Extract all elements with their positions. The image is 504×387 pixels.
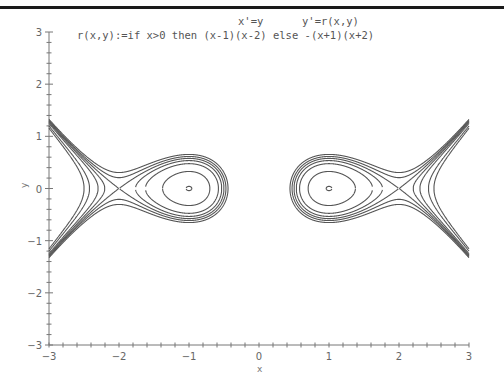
y-tick-label: 2 (36, 79, 42, 90)
trajectory-curve (49, 123, 98, 253)
title-rule: r(x,y):=if x>0 then (x-1)(x-2) else -(x+… (77, 29, 374, 41)
trajectory-curve (146, 164, 219, 214)
x-tick-label: 3 (466, 351, 472, 362)
x-tick-label: 0 (256, 351, 262, 362)
trajectory-curve (49, 120, 226, 256)
x-tick-label: 1 (326, 351, 332, 362)
trajectory-curve (163, 171, 210, 205)
title: x'=y y'=r(x,y) r(x,y):=if x>0 then (x-1)… (77, 15, 374, 41)
trajectory-curve (49, 128, 84, 249)
x-tick-label: 2 (396, 351, 402, 362)
y-tick-label: −3 (27, 340, 42, 351)
x-tick-label: −2 (112, 351, 127, 362)
title-xprime: x'=y (238, 15, 263, 27)
trajectory-curve (434, 128, 469, 249)
trajectories (49, 119, 469, 257)
trajectory-curve (49, 119, 228, 257)
trajectory-curve (413, 122, 469, 255)
title-yprime: y'=r(x,y) (302, 15, 359, 27)
y-tick-label: 1 (36, 131, 42, 142)
y-tick-label: −1 (27, 236, 42, 247)
trajectory-curve (120, 158, 224, 218)
y-tick-label: 0 (36, 184, 42, 195)
y-tick-label: 3 (36, 27, 42, 38)
trajectory-curve (308, 171, 355, 205)
x-tick-label: −3 (42, 351, 57, 362)
trajectory-curve (420, 123, 469, 253)
y-tick-label: −2 (27, 288, 42, 299)
trajectory-curve (326, 186, 332, 190)
trajectory-curve (294, 158, 398, 218)
trajectory-curve (292, 120, 469, 256)
trajectory-curve (290, 119, 469, 257)
trajectory-curve (300, 164, 373, 214)
phase-portrait-chart: x'=y y'=r(x,y) r(x,y):=if x>0 then (x-1)… (0, 0, 504, 387)
trajectory-curve (186, 186, 192, 190)
x-axis-label: x (257, 364, 263, 374)
axes: −3−2−10123−3−2−10123 (27, 27, 472, 362)
x-tick-label: −1 (182, 351, 197, 362)
trajectory-curve (49, 122, 105, 255)
y-axis-label: y (19, 182, 29, 188)
